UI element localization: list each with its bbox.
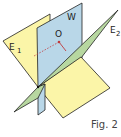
label-point-o: O	[55, 29, 62, 39]
planes-diagram: O W E 1 E 2	[0, 0, 121, 137]
figure-caption: Fig. 2	[91, 119, 118, 130]
point-o	[58, 41, 61, 44]
label-plane-w: W	[67, 12, 76, 22]
label-plane-e1: E	[9, 42, 15, 52]
label-plane-e2-subscript: 2	[116, 30, 120, 38]
label-plane-e1-subscript: 1	[17, 47, 21, 55]
intersection-point	[37, 86, 39, 88]
